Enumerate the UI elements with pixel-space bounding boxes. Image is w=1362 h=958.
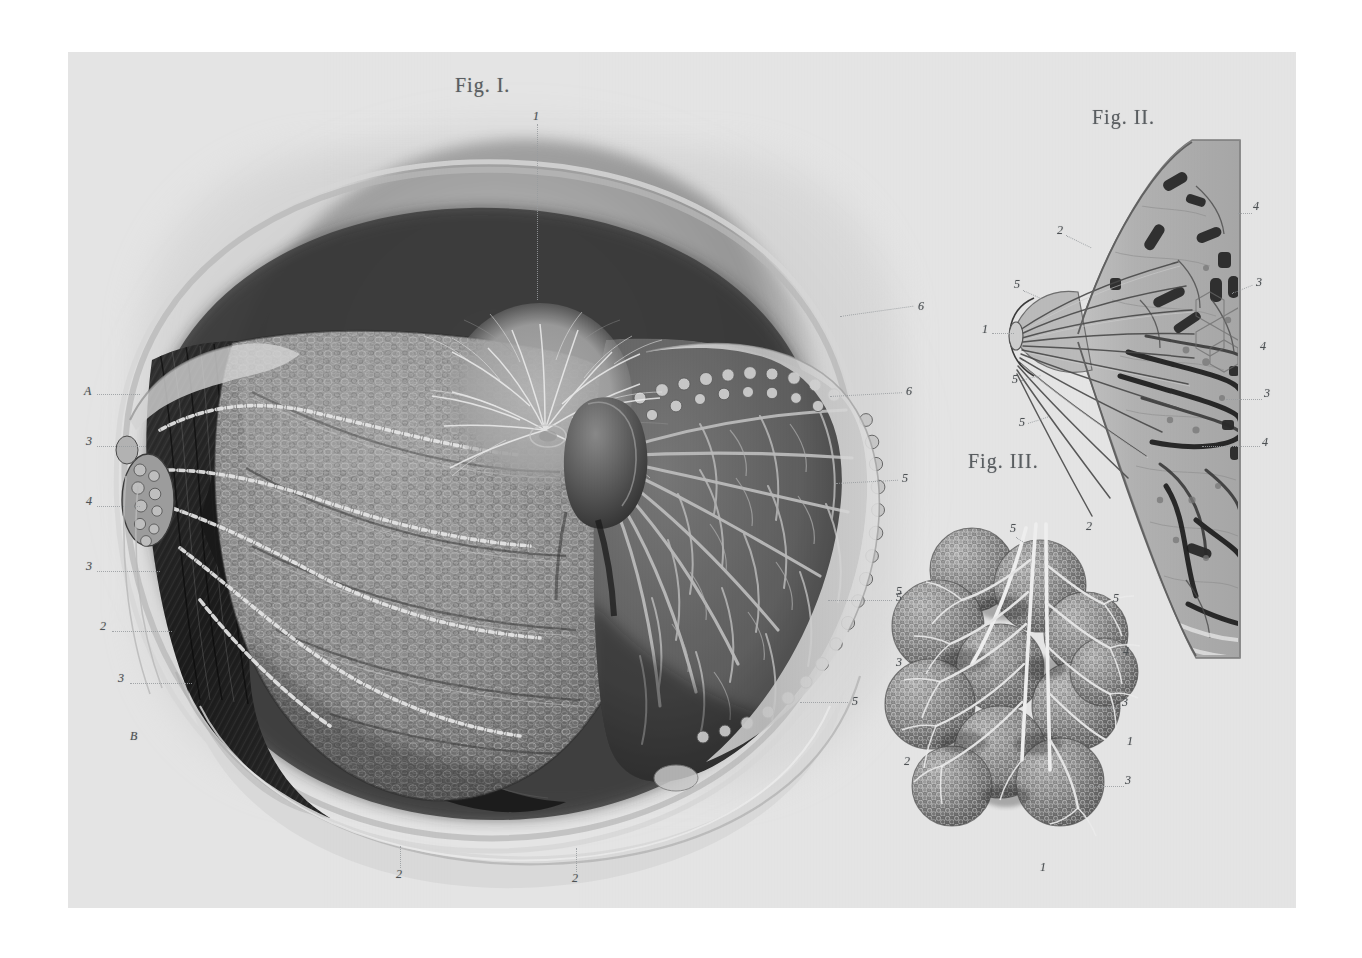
fig3-label-3b: 3 — [1122, 696, 1128, 708]
fig2-label-3b: 3 — [1264, 387, 1270, 399]
fig3-label-1a: 1 — [1127, 735, 1133, 747]
fig1-label-3b: 3 — [86, 560, 92, 572]
fig1-label-4: 4 — [86, 495, 92, 507]
fig3-label-2a: 2 — [1086, 520, 1092, 532]
leader-line — [1238, 213, 1252, 214]
fig2-label-5a: 5 — [1014, 278, 1020, 290]
leader-line — [112, 631, 172, 632]
leader-line — [1092, 605, 1113, 606]
lymph-node-cluster — [122, 454, 174, 546]
figure-1-illustration — [68, 52, 1296, 908]
fig1-label-2a: 2 — [100, 620, 106, 632]
leader-line — [828, 600, 892, 601]
leader-line — [537, 124, 538, 300]
fig2-label-4c: 4 — [1262, 436, 1268, 448]
leader-line — [400, 846, 401, 868]
fig1-label-A: A — [84, 385, 91, 397]
leader-line — [97, 571, 160, 572]
fig3-label-1b: 1 — [1040, 861, 1046, 873]
leader-line — [97, 394, 140, 395]
leader-line — [130, 683, 192, 684]
leader-line — [1106, 657, 1123, 658]
lithograph-paper: Fig. I. Fig. II. Fig. III. — [68, 52, 1296, 908]
leader-line — [1226, 399, 1262, 400]
leader-line — [1090, 786, 1124, 787]
fig1-label-6a: 6 — [918, 300, 924, 312]
fig3-label-5a: 5 — [1010, 522, 1016, 534]
figure-1-title: Fig. I. — [455, 74, 510, 97]
fig3-label-5c: 5 — [1113, 592, 1119, 604]
fig2-label-3a: 3 — [1256, 276, 1262, 288]
fig1-label-B: B — [130, 730, 137, 742]
figure-3-title: Fig. III. — [968, 450, 1039, 473]
leader-line — [576, 848, 577, 872]
figure-3-group — [885, 524, 1140, 836]
fig3-label-4: 4 — [1123, 645, 1129, 657]
fig1-label-2b: 2 — [396, 868, 402, 880]
fig2-label-4a: 4 — [1253, 200, 1259, 212]
leader-line — [97, 506, 140, 507]
fig2-label-2: 2 — [1057, 224, 1063, 236]
fig2-label-5b: 5 — [1012, 373, 1018, 385]
leader-line — [800, 702, 848, 703]
fig2-label-5c: 5 — [1019, 416, 1025, 428]
plate-root: Fig. I. Fig. II. Fig. III. — [0, 0, 1362, 958]
fig1-label-6b: 6 — [906, 385, 912, 397]
fig3-label-5b: 5 — [896, 585, 902, 597]
leader-line — [905, 669, 929, 670]
figure-1-group — [116, 120, 920, 888]
fig3-label-2b: 2 — [904, 755, 910, 767]
fig3-label-3c: 3 — [1125, 774, 1131, 786]
fig1-label-5c: 5 — [852, 695, 858, 707]
leader-line — [1096, 708, 1121, 709]
fig1-label-2c: 2 — [572, 872, 578, 884]
fig1-label-1: 1 — [533, 110, 539, 122]
leader-line — [97, 446, 146, 447]
figure-2-title: Fig. II. — [1092, 106, 1155, 129]
leader-line — [905, 598, 931, 599]
fig1-label-3a: 3 — [86, 435, 92, 447]
fig2-label-1: 1 — [982, 323, 988, 335]
fig3-label-3a: 3 — [896, 656, 902, 668]
leader-line — [992, 333, 1014, 334]
fig1-label-5a: 5 — [902, 472, 908, 484]
lymph-node-small — [116, 436, 138, 464]
leader-line — [1202, 446, 1260, 447]
fig2-label-4b: 4 — [1260, 340, 1266, 352]
fig1-label-3c: 3 — [118, 672, 124, 684]
